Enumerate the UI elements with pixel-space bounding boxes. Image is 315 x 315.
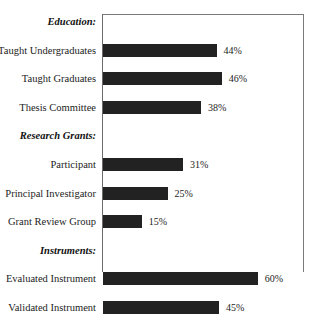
bar-category-label: Participant: [0, 157, 96, 172]
bar-value-label: 15%: [149, 214, 167, 229]
chart-bar-row: Taught Graduates46%: [0, 71, 315, 86]
chart-section-heading-row: Education:: [0, 14, 315, 29]
bar: [103, 272, 258, 285]
bar-value-label: 60%: [265, 271, 283, 286]
bar-category-label: Thesis Committee: [0, 100, 96, 115]
bar-value-label: 38%: [208, 100, 226, 115]
bar-category-label: Grant Review Group: [0, 214, 96, 229]
bar-value-label: 44%: [224, 43, 242, 58]
chart-bar-row: Participant31%: [0, 157, 315, 172]
chart-bar-row: Thesis Committee38%: [0, 100, 315, 115]
section-heading: Education:: [0, 14, 96, 29]
bar: [103, 215, 142, 228]
bar-value-label: 45%: [226, 300, 244, 315]
chart-section-heading-row: Research Grants:: [0, 128, 315, 143]
bar-category-label: Taught Graduates: [0, 71, 96, 86]
chart-bar-row: Validated Instrument45%: [0, 300, 315, 315]
chart-bar-row: Evaluated Instrument60%: [0, 271, 315, 286]
bar: [103, 44, 217, 57]
bar: [103, 101, 201, 114]
bar-value-label: 46%: [229, 71, 247, 86]
section-heading: Instruments:: [0, 243, 96, 258]
bar-category-label: Validated Instrument: [0, 300, 96, 315]
chart-bar-row: Principal Investigator25%: [0, 186, 315, 201]
bar-category-label: Principal Investigator: [0, 186, 96, 201]
bar: [103, 72, 222, 85]
chart-section-heading-row: Instruments:: [0, 243, 315, 258]
bar-category-label: Taught Undergraduates: [0, 43, 96, 58]
chart-bar-row: Taught Undergraduates44%: [0, 43, 315, 58]
section-heading: Research Grants:: [0, 128, 96, 143]
bar: [103, 158, 183, 171]
bar-value-label: 31%: [190, 157, 208, 172]
bar-value-label: 25%: [175, 186, 193, 201]
bar-category-label: Evaluated Instrument: [0, 271, 96, 286]
bar: [103, 301, 219, 314]
chart-bar-row: Grant Review Group15%: [0, 214, 315, 229]
bar: [103, 187, 168, 200]
